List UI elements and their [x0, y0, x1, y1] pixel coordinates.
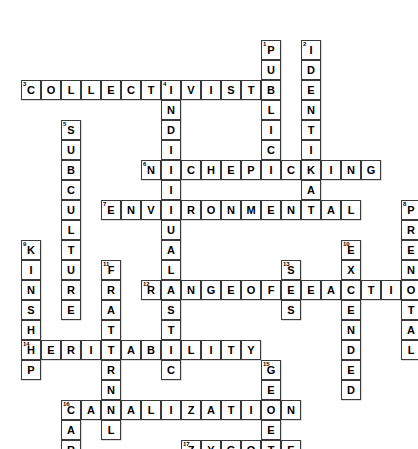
crossword-cell[interactable]: A [61, 420, 81, 440]
crossword-cell[interactable]: 13S [281, 260, 301, 280]
crossword-cell[interactable]: A [121, 400, 141, 420]
crossword-cell[interactable]: S [21, 300, 41, 320]
crossword-cell[interactable]: C [121, 80, 141, 100]
crossword-cell[interactable]: 15G [261, 360, 281, 380]
crossword-cell[interactable]: S [161, 300, 181, 320]
crossword-cell[interactable]: V [141, 200, 161, 220]
crossword-cell[interactable]: D [301, 60, 321, 80]
crossword-cell[interactable]: I [381, 280, 401, 300]
crossword-cell[interactable]: I [321, 160, 341, 180]
crossword-cell[interactable]: O [401, 280, 418, 300]
crossword-cell[interactable]: N [221, 200, 241, 220]
crossword-cell[interactable]: N [161, 100, 181, 120]
crossword-cell[interactable]: C [61, 180, 81, 200]
crossword-cell[interactable]: T [361, 280, 381, 300]
crossword-cell[interactable]: C [161, 360, 181, 380]
crossword-cell[interactable]: E [281, 280, 301, 300]
crossword-cell[interactable]: K [301, 160, 321, 180]
crossword-cell[interactable]: 4I [161, 80, 181, 100]
crossword-cell[interactable]: T [101, 340, 121, 360]
crossword-cell[interactable]: H [201, 160, 221, 180]
crossword-cell[interactable]: N [101, 380, 121, 400]
crossword-cell[interactable]: Y [201, 440, 221, 449]
crossword-cell[interactable]: T [301, 200, 321, 220]
crossword-cell[interactable]: N [341, 320, 361, 340]
crossword-cell[interactable]: E [261, 380, 281, 400]
crossword-cell[interactable]: I [161, 340, 181, 360]
crossword-cell[interactable]: N [101, 400, 121, 420]
crossword-cell[interactable]: E [41, 340, 61, 360]
crossword-cell[interactable]: O [241, 280, 261, 300]
crossword-cell[interactable]: I [161, 140, 181, 160]
crossword-cell[interactable]: L [181, 340, 201, 360]
crossword-cell[interactable]: R [61, 280, 81, 300]
crossword-cell[interactable]: E [221, 160, 241, 180]
crossword-cell[interactable]: N [301, 100, 321, 120]
crossword-cell[interactable]: O [41, 80, 61, 100]
crossword-cell[interactable]: C [181, 160, 201, 180]
crossword-cell[interactable]: T [221, 340, 241, 360]
crossword-cell[interactable]: L [61, 220, 81, 240]
crossword-cell[interactable]: A [301, 180, 321, 200]
crossword-cell[interactable]: 5S [61, 120, 81, 140]
crossword-cell[interactable]: A [321, 280, 341, 300]
crossword-cell[interactable]: L [341, 200, 361, 220]
crossword-cell[interactable]: A [201, 400, 221, 420]
crossword-cell[interactable]: C [261, 140, 281, 160]
crossword-cell[interactable]: 14H [21, 340, 41, 360]
crossword-cell[interactable]: 12R [141, 280, 161, 300]
crossword-cell[interactable]: L [261, 100, 281, 120]
crossword-cell[interactable]: U [161, 220, 181, 240]
crossword-cell[interactable]: X [341, 260, 361, 280]
crossword-cell[interactable]: R [101, 280, 121, 300]
crossword-cell[interactable]: T [301, 120, 321, 140]
crossword-cell[interactable]: N [281, 400, 301, 420]
crossword-cell[interactable]: T [141, 80, 161, 100]
crossword-cell[interactable]: 6N [141, 160, 161, 180]
crossword-cell[interactable]: I [261, 160, 281, 180]
crossword-cell[interactable]: I [201, 340, 221, 360]
crossword-cell[interactable]: N [341, 160, 361, 180]
crossword-cell[interactable]: E [261, 200, 281, 220]
crossword-cell[interactable]: Y [241, 340, 261, 360]
crossword-cell[interactable]: P [241, 160, 261, 180]
crossword-cell[interactable]: V [181, 80, 201, 100]
crossword-cell[interactable]: L [81, 80, 101, 100]
crossword-cell[interactable]: L [101, 420, 121, 440]
crossword-cell[interactable]: B [61, 160, 81, 180]
crossword-cell[interactable]: I [161, 400, 181, 420]
crossword-cell[interactable]: S [221, 80, 241, 100]
crossword-cell[interactable]: P [21, 360, 41, 380]
crossword-cell[interactable]: I [241, 400, 261, 420]
crossword-cell[interactable]: H [21, 320, 41, 340]
crossword-cell[interactable]: N [21, 280, 41, 300]
crossword-cell[interactable]: A [121, 340, 141, 360]
crossword-cell[interactable]: I [81, 340, 101, 360]
crossword-cell[interactable]: A [161, 280, 181, 300]
crossword-cell[interactable]: 8P [401, 200, 418, 220]
crossword-cell[interactable]: F [261, 280, 281, 300]
crossword-cell[interactable]: N [181, 280, 201, 300]
crossword-cell[interactable]: B [141, 340, 161, 360]
crossword-cell[interactable]: I [21, 260, 41, 280]
crossword-cell[interactable]: R [61, 440, 81, 449]
crossword-cell[interactable]: T [161, 320, 181, 340]
crossword-cell[interactable]: R [61, 340, 81, 360]
crossword-cell[interactable]: E [341, 360, 361, 380]
crossword-cell[interactable]: M [241, 200, 261, 220]
crossword-cell[interactable]: O [201, 200, 221, 220]
crossword-cell[interactable]: A [401, 320, 418, 340]
crossword-cell[interactable]: 17Z [181, 440, 201, 449]
crossword-cell[interactable]: A [161, 240, 181, 260]
crossword-cell[interactable]: E [221, 280, 241, 300]
crossword-cell[interactable]: U [61, 140, 81, 160]
crossword-cell[interactable]: E [61, 300, 81, 320]
crossword-cell[interactable]: I [301, 140, 321, 160]
crossword-cell[interactable]: D [161, 120, 181, 140]
crossword-cell[interactable]: I [161, 200, 181, 220]
crossword-cell[interactable]: N [401, 260, 418, 280]
crossword-cell[interactable]: L [401, 340, 418, 360]
crossword-cell[interactable]: C [281, 160, 301, 180]
crossword-cell[interactable]: C [341, 280, 361, 300]
crossword-cell[interactable]: 11F [101, 260, 121, 280]
